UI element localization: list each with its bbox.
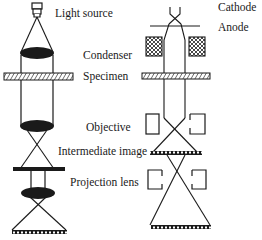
cathode-icon bbox=[169, 7, 181, 24]
electron-projection-crossing bbox=[150, 155, 210, 225]
objective-lens-icon bbox=[20, 120, 54, 132]
intermediate-image-left bbox=[13, 167, 65, 171]
intermediate-image-right bbox=[150, 151, 202, 155]
electron-objective-crossing bbox=[153, 118, 197, 152]
light-source-icon bbox=[32, 3, 42, 17]
label-projection-lens: Projection lens bbox=[70, 177, 139, 189]
final-image-right bbox=[151, 225, 211, 229]
objective-coils-icon bbox=[146, 114, 205, 134]
label-intermediate-image: Intermediate image bbox=[58, 146, 147, 158]
condenser-lens-icon bbox=[20, 47, 54, 59]
projection-crossing-rays bbox=[12, 197, 66, 230]
label-objective: Objective bbox=[86, 122, 131, 134]
label-cathode: Cathode bbox=[218, 2, 256, 14]
label-anode: Anode bbox=[218, 22, 249, 34]
electron-beam-upper bbox=[164, 24, 185, 118]
label-light-source: Light source bbox=[55, 8, 113, 20]
specimen-slide-right bbox=[142, 73, 210, 79]
condenser-coil-right-icon bbox=[189, 37, 205, 56]
label-specimen: Specimen bbox=[83, 71, 128, 83]
projection-lens-icon bbox=[21, 187, 55, 199]
final-image-left bbox=[12, 230, 67, 234]
light-cone bbox=[21, 17, 53, 52]
condenser-coil-left-icon bbox=[146, 37, 162, 56]
objective-crossing-rays bbox=[20, 130, 54, 169]
projection-coils-icon bbox=[148, 170, 206, 189]
microscope-comparison-diagram: Light source Condenser Specimen Objectiv… bbox=[0, 0, 262, 240]
label-condenser: Condenser bbox=[83, 50, 132, 62]
diagram-drawing bbox=[0, 0, 262, 240]
specimen-slide-left bbox=[4, 73, 73, 80]
parallel-beam bbox=[21, 55, 53, 126]
